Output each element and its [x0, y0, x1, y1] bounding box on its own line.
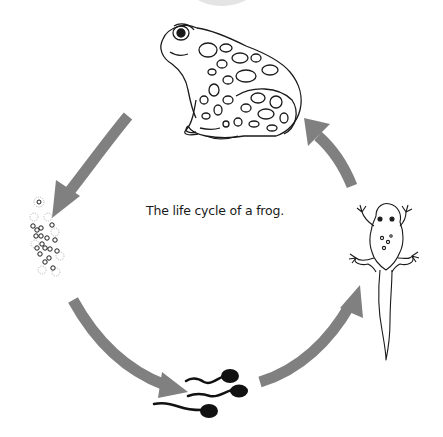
- froglet-icon: [0, 0, 443, 437]
- frog-life-cycle-diagram: The life cycle of a frog.: [0, 0, 443, 437]
